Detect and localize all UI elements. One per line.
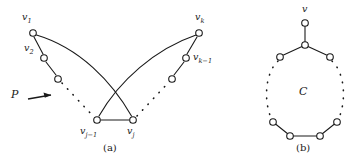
label-vk1-sub: k−1 xyxy=(198,57,212,65)
edge-pk3-vk1 xyxy=(174,62,184,75)
path-arrow xyxy=(28,93,51,99)
label-path-P: P xyxy=(11,89,18,100)
edge-v2-p3 xyxy=(46,62,56,75)
node-vj xyxy=(130,117,137,124)
node-vk xyxy=(196,30,203,37)
chord-v1-vj xyxy=(37,35,132,116)
edge-cycle-top-right xyxy=(308,47,327,56)
label-vj-sub: j xyxy=(132,131,134,139)
panel-a-graph xyxy=(28,30,202,124)
edge-cycle-bottom-left-upper xyxy=(276,124,289,134)
diagram-canvas xyxy=(0,0,358,163)
edge-cycle-top-left xyxy=(284,47,303,56)
caption-panel-b: (b) xyxy=(296,142,310,153)
node-path-3 xyxy=(55,76,62,83)
node-pendant-v xyxy=(302,20,309,27)
label-vj: vj xyxy=(127,126,134,138)
panel-b-graph xyxy=(267,20,344,140)
edge-v1-v2 xyxy=(34,37,43,54)
label-vk-minus-1: vk−1 xyxy=(193,52,212,64)
dots-cycle-right xyxy=(332,61,343,118)
label-vk-sub: k xyxy=(200,17,204,25)
label-vj-minus-1: vj−1 xyxy=(80,126,97,138)
edge-cycle-bottom-right-upper xyxy=(322,124,335,134)
label-v1: v1 xyxy=(22,12,32,24)
label-v2: v2 xyxy=(24,43,34,55)
node-cycle-upper-left xyxy=(277,54,284,61)
label-cycle-C: C xyxy=(299,86,307,97)
label-v1-sub: 1 xyxy=(27,17,31,25)
label-v2-sub: 2 xyxy=(29,48,33,56)
node-v2 xyxy=(41,55,48,62)
node-cycle-lower-right xyxy=(334,119,341,126)
label-vk: vk xyxy=(195,12,204,24)
node-path-k3 xyxy=(169,76,176,83)
node-cycle-upper-right xyxy=(327,54,334,61)
label-vj1-sub: j−1 xyxy=(85,131,97,139)
label-pendant-v: v xyxy=(302,4,307,14)
dots-left-path xyxy=(62,83,93,116)
node-cycle-bottom-right xyxy=(317,133,324,140)
node-cycle-lower-left xyxy=(270,119,277,126)
figure-container: v1 v2 vk vk−1 vj−1 vj P (a) v C (b) xyxy=(0,0,358,163)
node-vk-minus-1 xyxy=(183,55,190,62)
dots-right-path xyxy=(137,83,168,116)
caption-panel-a: (a) xyxy=(103,142,117,153)
node-vj-minus-1 xyxy=(94,117,101,124)
node-v1 xyxy=(30,30,37,37)
node-cycle-top xyxy=(302,42,309,49)
dots-cycle-left xyxy=(267,61,278,118)
node-cycle-bottom-left xyxy=(287,133,294,140)
